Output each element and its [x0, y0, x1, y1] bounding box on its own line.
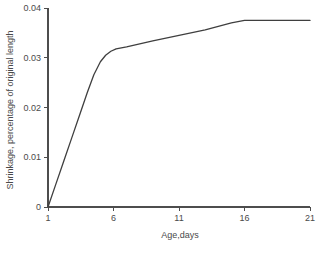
y-axis-title: Shrinkage, percentage of original length: [5, 30, 15, 189]
shrinkage-vs-age-line-chart: 00.010.020.030.04 16111621 Age,days Shri…: [0, 0, 319, 253]
x-tick-label: 11: [174, 213, 183, 223]
y-axis-ticks: [44, 8, 48, 207]
x-axis-title: Age,days: [161, 230, 199, 240]
x-tick-label: 21: [305, 213, 315, 223]
y-axis-tick-labels: 00.010.020.030.04: [23, 3, 41, 212]
y-tick-label: 0.03: [23, 53, 41, 63]
x-tick-label: 6: [111, 213, 116, 223]
y-tick-label: 0.01: [23, 152, 41, 162]
chart-figure: 00.010.020.030.04 16111621 Age,days Shri…: [0, 0, 319, 253]
x-axis-ticks: [48, 207, 310, 211]
y-tick-label: 0.02: [23, 103, 41, 113]
shrinkage-curve: [48, 20, 310, 207]
y-tick-label: 0.04: [23, 3, 41, 13]
y-tick-label: 0: [36, 202, 41, 212]
x-tick-label: 16: [239, 213, 249, 223]
x-tick-label: 1: [45, 213, 50, 223]
x-axis-tick-labels: 16111621: [45, 213, 315, 223]
